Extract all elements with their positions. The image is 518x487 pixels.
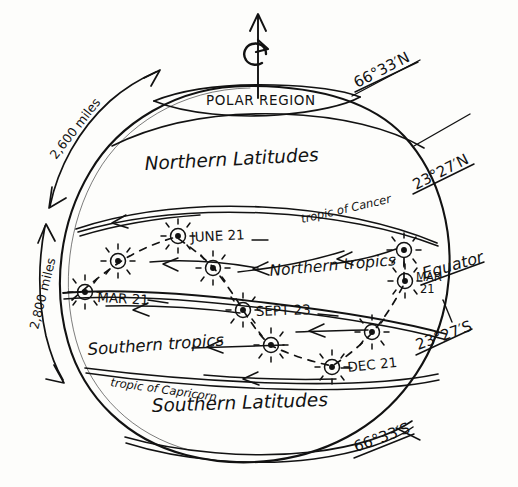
rotation-direction-icon — [244, 40, 268, 65]
mar-21-right-label: MAR21 — [416, 270, 442, 296]
june-21-label: JUNE 21 — [189, 226, 245, 245]
globe-diagram-svg: POLAR REGION Northern Latitudes Northern… — [0, 0, 518, 487]
sun-mid-south-a — [254, 328, 288, 362]
northern-tropics-label: Northern tropics — [269, 251, 397, 280]
antarctic-circle-label: 66°33′S — [351, 419, 412, 456]
northern-latitudes-label: Northern Latitudes — [144, 144, 319, 174]
distance-2800-label: 2,800 miles — [26, 256, 58, 331]
southern-tropics-label: Southern tropics — [87, 330, 225, 359]
diagram-canvas: POLAR REGION Northern Latitudes Northern… — [0, 0, 518, 487]
dec-21-label: DEC 21 — [347, 354, 398, 375]
tropic-of-cancer-inline-label: tropic of Cancer — [300, 191, 394, 226]
text-labels: POLAR REGION Northern Latitudes Northern… — [26, 48, 487, 456]
sun-mid-south-b — [355, 315, 389, 349]
arctic-circle-label: 66°33′N — [351, 48, 413, 91]
sun-mid-north-a — [101, 244, 135, 278]
distance-2600-label: 2,600 miles — [47, 95, 104, 162]
sun-mid-north-b — [196, 251, 230, 285]
polar-region-label: POLAR REGION — [206, 92, 316, 108]
arctic-circle-line — [112, 114, 424, 148]
tropic-of-capricorn-label: 23°27′S — [413, 317, 474, 354]
sun-dec21 — [315, 350, 349, 384]
sept-23-label: SEPT 23 — [256, 301, 311, 319]
mar-21-label: MAR 21 — [97, 289, 150, 308]
